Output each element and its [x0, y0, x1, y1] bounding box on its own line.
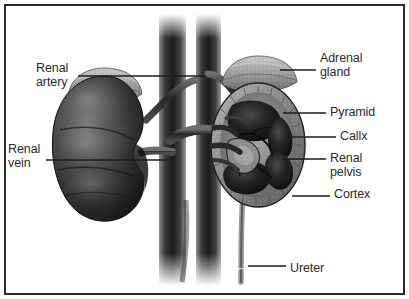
right-kidney-section	[211, 52, 305, 207]
label-renal-pelvis: Renal pelvis	[330, 152, 362, 179]
label-adrenal-gland: Adrenal gland	[320, 52, 362, 79]
label-renal-artery: Renal artery	[36, 62, 68, 89]
kidney-anatomy-figure: Renal arteryRenal veinAdrenal glandPyram…	[0, 0, 409, 299]
label-callx: Callx	[340, 130, 367, 144]
label-ureter: Ureter	[290, 262, 324, 276]
anatomy-illustration	[0, 0, 409, 299]
label-cortex: Cortex	[334, 188, 370, 202]
label-renal-vein: Renal vein	[8, 143, 40, 170]
label-pyramid: Pyramid	[330, 106, 375, 120]
left-renal-vein-branch	[142, 151, 172, 153]
